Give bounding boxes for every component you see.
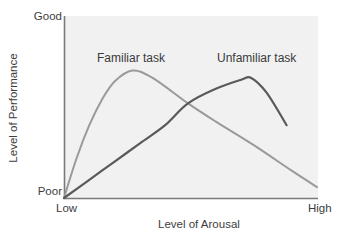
chart-canvas (0, 0, 348, 241)
x-tick-low: Low (56, 203, 77, 215)
familiar-task-label: Familiar task (97, 52, 165, 64)
unfamiliar-task-label: Unfamiliar task (217, 52, 296, 64)
x-axis-title: Level of Arousal (158, 219, 240, 231)
y-axis-title: Level of Performance (8, 53, 20, 162)
arousal-performance-chart: Good Poor Low High Level of Arousal Leve… (0, 0, 348, 241)
y-tick-poor: Poor (38, 186, 62, 198)
y-tick-good: Good (34, 11, 62, 23)
x-tick-high: High (308, 203, 332, 215)
